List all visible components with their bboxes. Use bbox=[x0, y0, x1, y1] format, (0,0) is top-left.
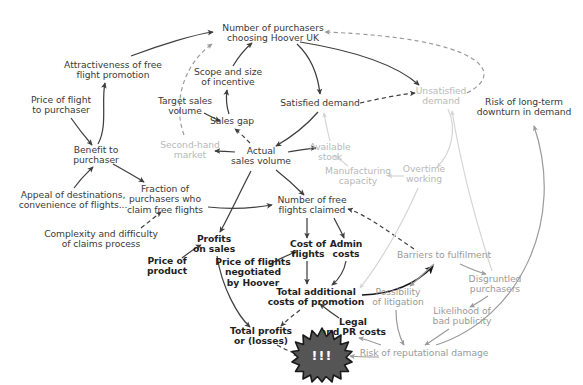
node-fraction-of-purchasers-who-claim-free-flights: Fraction of purchasers who claim free fl… bbox=[127, 184, 203, 215]
node-unsatisfied-demand: Unsatisfied demand bbox=[416, 86, 467, 107]
node-number-of-free-flights-claimed: Number of free flights claimed bbox=[277, 195, 346, 216]
edge-possibility-to-riskrep bbox=[396, 310, 404, 345]
edge-actual-to-profits bbox=[220, 171, 251, 232]
node-likelihood-of-bad-publicity: Likelihood of bad publicity bbox=[433, 306, 492, 327]
node-total-additional-costs-of-promotion: Total additional costs of promotion bbox=[268, 287, 365, 308]
edge-availablestock-to-satisfied bbox=[324, 113, 330, 141]
edge-purchasers-to-unsatisfied bbox=[300, 42, 419, 85]
edge-riskrep-to-legal bbox=[359, 338, 381, 345]
edge-appeal-to-benefit bbox=[74, 167, 93, 188]
node-scope-and-size-of-incentive: Scope and size of incentive bbox=[194, 67, 262, 88]
edges-dark-dashed bbox=[141, 93, 415, 355]
node-complexity-and-difficulty-of-claims-process: Complexity and difficulty of claims proc… bbox=[44, 229, 158, 250]
edge-likelihood-to-riskrep bbox=[425, 329, 449, 345]
crisis-burst: !!! bbox=[291, 327, 353, 383]
edges-faded bbox=[324, 109, 492, 288]
node-admin-costs: Admin costs bbox=[330, 239, 363, 260]
node-satisfied-demand: Satisfied demand bbox=[280, 98, 360, 108]
node-second-hand-market: Second-hand market bbox=[160, 140, 220, 161]
node-barriers-to-fulfilment: Barriers to fulfilment bbox=[397, 250, 491, 260]
edge-disgruntled-to-unsatisfied bbox=[452, 111, 492, 271]
node-disgruntled-purchasers: Disgruntled purchasers bbox=[469, 274, 522, 295]
node-benefit-to-purchaser: Benefit to purchaser bbox=[73, 145, 119, 166]
edge-purchasers-to-satisfied bbox=[297, 44, 320, 94]
node-possibility-of-litigation: Possibility of litigation bbox=[372, 287, 423, 308]
node-price-of-product: Price of product bbox=[147, 256, 187, 277]
node-number-of-purchasers-choosing-hoover-uk: Number of purchasers choosing Hoover UK bbox=[222, 23, 323, 44]
edge-overtime-to-totaladd bbox=[360, 188, 418, 288]
edge-secondhand-to-purchasers bbox=[179, 44, 212, 135]
edge-freeflights-to-admin bbox=[334, 218, 344, 238]
node-total-profits-or-losses: Total profits or (losses) bbox=[230, 326, 292, 347]
edge-fraction-to-freeflights bbox=[208, 205, 272, 208]
node-profits-on-sales: Profits on sales bbox=[193, 234, 235, 255]
node-actual-sales-volume: Actual sales volume bbox=[231, 146, 291, 167]
node-available-stock: Available stock bbox=[309, 142, 350, 163]
edge-admin-to-totaladd bbox=[332, 261, 346, 285]
edge-unsatisfied-to-overtime bbox=[437, 109, 452, 167]
node-risk-of-reputational-damage: Risk of reputational damage bbox=[360, 348, 489, 358]
node-appeal-of-destinations: Appeal of destinations, convenience of f… bbox=[19, 190, 128, 211]
node-manufacturing-capacity: Manufacturing capacity bbox=[325, 166, 391, 187]
edge-benefit-to-fraction bbox=[113, 164, 144, 182]
node-overtime-working: Overtime working bbox=[403, 164, 445, 185]
edge-actual-to-salesgap bbox=[235, 129, 250, 143]
edge-benefit-to-attractiveness bbox=[98, 83, 105, 144]
causal-loop-diagram: Number of purchasers choosing Hoover UK … bbox=[0, 0, 583, 385]
edge-scope-to-purchasers bbox=[233, 43, 252, 66]
node-price-of-flight-to-purchaser: Price of flight to purchaser bbox=[31, 95, 91, 116]
edge-attractiveness-to-purchasers bbox=[131, 32, 213, 56]
edge-barriers-to-possibility bbox=[410, 264, 434, 286]
node-sales-gap: Sales gap bbox=[210, 116, 254, 126]
edge-totaladd-to-totalprofits bbox=[281, 310, 300, 326]
node-risk-of-long-term-downturn-in-demand: Risk of long-term downturn in demand bbox=[477, 97, 572, 118]
node-price-of-flights-negotiated-by-hoover: Price of flights negotiated by Hoover bbox=[215, 257, 290, 288]
node-attractiveness-of-free-flight-promotion: Attractiveness of free flight promotion bbox=[64, 60, 162, 81]
edge-actual-to-freeflights bbox=[276, 170, 304, 195]
edge-salesgap-to-scope bbox=[226, 90, 229, 114]
node-target-sales-volume: Target sales volume bbox=[158, 96, 212, 117]
edge-satisfied-to-unsatisfied bbox=[360, 93, 415, 103]
edge-priceflight-to-benefit bbox=[71, 118, 92, 145]
node-cost-of-flights: Cost of flights bbox=[290, 239, 326, 260]
starburst-icon bbox=[291, 327, 353, 383]
